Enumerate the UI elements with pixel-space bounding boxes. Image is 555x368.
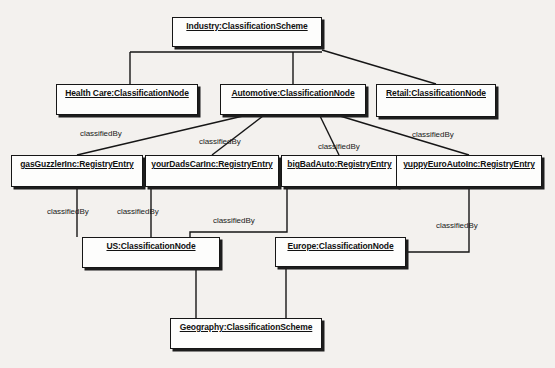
uml-node-bigbadauto[interactable]: bigBadAuto:RegistryEntry — [281, 155, 398, 187]
uml-node-label: gasGuzzlerInc:RegistryEntry — [12, 159, 142, 169]
uml-node-yourdadscar[interactable]: yourDadsCarInc:RegistryEntry — [145, 155, 279, 187]
edge-label-classifiedby: classifiedBy — [318, 142, 360, 151]
edge-bigbadauto-us — [190, 187, 287, 237]
uml-node-label: Industry:ClassificationScheme — [173, 21, 321, 31]
uml-node-label: yourDadsCarInc:RegistryEntry — [146, 159, 278, 169]
uml-node-yuppyeuroauto[interactable]: yuppyEuroAutoInc:RegistryEntry — [396, 155, 542, 187]
edge-label-classifiedby: classifiedBy — [117, 207, 159, 216]
uml-node-retail[interactable]: Retail:ClassificationNode — [376, 84, 496, 117]
uml-node-label: Geography:ClassificationScheme — [171, 322, 321, 332]
uml-node-gasguzzler[interactable]: gasGuzzlerInc:RegistryEntry — [11, 155, 143, 187]
uml-node-label: Retail:ClassificationNode — [377, 88, 495, 98]
uml-node-label: Europe:ClassificationNode — [276, 241, 405, 251]
uml-node-label: bigBadAuto:RegistryEntry — [282, 159, 397, 169]
edge-label-classifiedby: classifiedBy — [436, 221, 478, 230]
uml-node-us[interactable]: US:ClassificationNode — [82, 237, 220, 268]
uml-node-label: yuppyEuroAutoInc:RegistryEntry — [397, 159, 541, 169]
edge-yuppyeuroauto-europe — [406, 187, 469, 252]
edge-industry-retail — [322, 50, 436, 84]
uml-node-healthcare[interactable]: Health Care:ClassificationNode — [56, 84, 198, 115]
uml-node-automotive[interactable]: Automotive:ClassificationNode — [220, 84, 366, 115]
uml-node-label: Automotive:ClassificationNode — [221, 88, 365, 98]
uml-node-industry[interactable]: Industry:ClassificationScheme — [172, 17, 322, 47]
edge-label-classifiedby: classifiedBy — [199, 137, 241, 146]
uml-node-geography[interactable]: Geography:ClassificationScheme — [170, 318, 322, 349]
uml-object-diagram: Industry:ClassificationScheme Health Car… — [0, 0, 555, 368]
uml-node-label: Health Care:ClassificationNode — [57, 88, 197, 98]
edge-label-classifiedby: classifiedBy — [213, 216, 255, 225]
uml-node-label: US:ClassificationNode — [83, 241, 219, 251]
edge-label-classifiedby: classifiedBy — [80, 129, 122, 138]
edge-label-classifiedby: classifiedBy — [47, 207, 89, 216]
uml-node-europe[interactable]: Europe:ClassificationNode — [275, 237, 406, 267]
edge-label-classifiedby: classifiedBy — [412, 130, 454, 139]
